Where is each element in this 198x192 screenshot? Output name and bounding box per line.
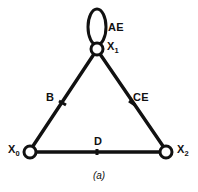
node-x0 [24,146,36,158]
figure-caption: (a) [0,170,198,181]
node-label-x0-base: X [8,143,16,155]
node-label-x1-subscript: 1 [115,46,119,55]
node-label-x2-base: X [177,143,185,155]
edge-label-ae: AE [108,22,124,33]
node-label-x2: X2 [177,144,189,155]
edge-label-b: B [46,92,54,103]
node-label-x1: X1 [107,41,119,52]
node-label-x1-base: X [107,40,115,52]
node-label-x2-subscript: 2 [185,149,189,158]
edge-label-d: D [94,136,102,147]
node-label-x0: X0 [8,144,20,155]
node-label-x0-subscript: 0 [16,149,20,158]
graph-figure: AE X1 B CE D X0 X2 (a) [0,0,198,192]
node-x1 [91,43,103,55]
edge-label-ce: CE [133,92,149,103]
node-x2 [160,146,172,158]
edge-self-loop-AE [88,9,106,45]
graph-canvas [0,0,198,192]
